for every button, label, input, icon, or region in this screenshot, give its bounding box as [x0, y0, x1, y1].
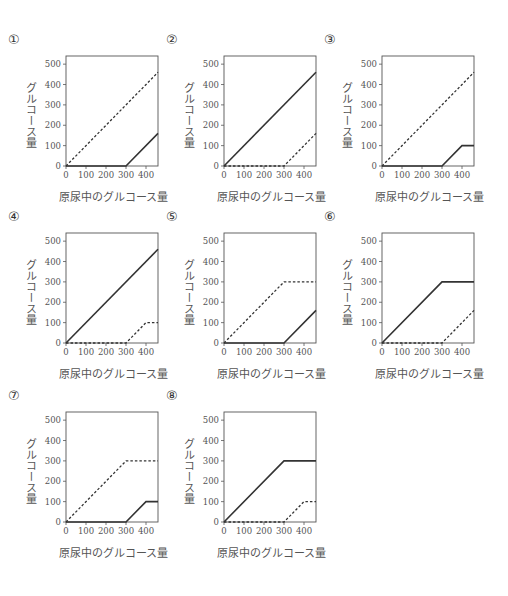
- y-tick-label: 300: [203, 100, 219, 110]
- plot-frame: [382, 56, 474, 166]
- dashed-line: [224, 133, 316, 166]
- y-tick-label: 300: [203, 277, 219, 287]
- y-axis-label: グルコース量: [182, 82, 194, 148]
- x-tick-label: 300: [276, 170, 292, 180]
- y-axis-label: グルコース量: [24, 259, 36, 325]
- x-axis-label: 原尿中のグルコース量: [217, 365, 326, 381]
- y-tick-label: 400: [203, 80, 219, 90]
- x-tick-label: 400: [296, 347, 312, 357]
- x-tick-label: 400: [296, 526, 312, 536]
- chart-4: 01002003004005000100200300400: [66, 233, 158, 343]
- x-tick-label: 400: [454, 347, 470, 357]
- y-tick-label: 400: [361, 80, 377, 90]
- chart-1: 01002003004005000100200300400: [66, 56, 158, 166]
- panel-number: ②: [166, 32, 178, 47]
- x-tick-label: 300: [276, 526, 292, 536]
- x-axis-label: 原尿中のグルコース量: [59, 365, 168, 381]
- x-axis-label: 原尿中のグルコース量: [59, 544, 168, 560]
- y-tick-label: 100: [45, 318, 61, 328]
- chart-8: 01002003004005000100200300400: [224, 412, 316, 522]
- y-tick-label: 400: [361, 257, 377, 267]
- y-tick-label: 0: [214, 161, 219, 171]
- panel-number: ⑦: [8, 388, 20, 403]
- y-tick-label: 200: [361, 297, 377, 307]
- plot-frame: [224, 233, 316, 343]
- y-axis-label: グルコース量: [182, 438, 194, 504]
- y-tick-label: 0: [56, 517, 61, 527]
- solid-line: [66, 133, 158, 166]
- panel-number: ①: [8, 32, 20, 47]
- y-axis-label: グルコース量: [24, 82, 36, 148]
- x-tick-label: 0: [63, 347, 68, 357]
- x-tick-label: 200: [256, 526, 272, 536]
- y-tick-label: 200: [45, 476, 61, 486]
- x-tick-label: 100: [236, 347, 252, 357]
- x-tick-label: 100: [78, 347, 94, 357]
- y-tick-label: 300: [45, 277, 61, 287]
- x-tick-label: 400: [138, 526, 154, 536]
- x-tick-label: 0: [379, 170, 384, 180]
- y-tick-label: 500: [361, 236, 377, 246]
- y-tick-label: 100: [45, 141, 61, 151]
- y-tick-label: 200: [203, 297, 219, 307]
- panel-number: ⑧: [166, 388, 178, 403]
- solid-line: [224, 72, 316, 166]
- y-tick-label: 400: [45, 257, 61, 267]
- x-tick-label: 0: [379, 347, 384, 357]
- x-tick-label: 300: [118, 526, 134, 536]
- y-tick-label: 0: [56, 161, 61, 171]
- y-axis-label: グルコース量: [340, 82, 352, 148]
- y-tick-label: 400: [203, 257, 219, 267]
- x-tick-label: 300: [276, 347, 292, 357]
- chart-6: 01002003004005000100200300400: [382, 233, 474, 343]
- plot-frame: [224, 412, 316, 522]
- y-axis-label: グルコース量: [24, 438, 36, 504]
- y-tick-label: 500: [45, 415, 61, 425]
- x-axis-label: 原尿中のグルコース量: [217, 544, 326, 560]
- y-tick-label: 0: [56, 338, 61, 348]
- y-tick-label: 200: [203, 476, 219, 486]
- solid-line: [382, 282, 474, 343]
- y-tick-label: 100: [203, 141, 219, 151]
- y-tick-label: 0: [372, 338, 377, 348]
- y-tick-label: 100: [203, 497, 219, 507]
- dashed-line: [66, 323, 158, 343]
- dashed-line: [224, 502, 316, 522]
- x-tick-label: 100: [236, 526, 252, 536]
- y-axis-label: グルコース量: [340, 259, 352, 325]
- plot-frame: [66, 56, 158, 166]
- chart-2: 01002003004005000100200300400: [224, 56, 316, 166]
- x-tick-label: 0: [221, 170, 226, 180]
- y-tick-label: 300: [45, 456, 61, 466]
- y-tick-label: 500: [203, 415, 219, 425]
- chart-7: 01002003004005000100200300400: [66, 412, 158, 522]
- chart-5: 01002003004005000100200300400: [224, 233, 316, 343]
- x-tick-label: 300: [118, 170, 134, 180]
- y-tick-label: 100: [203, 318, 219, 328]
- y-tick-label: 200: [45, 297, 61, 307]
- y-tick-label: 200: [45, 120, 61, 130]
- y-tick-label: 100: [45, 497, 61, 507]
- solid-line: [382, 146, 474, 166]
- x-tick-label: 100: [78, 170, 94, 180]
- y-tick-label: 300: [361, 277, 377, 287]
- y-tick-label: 400: [45, 436, 61, 446]
- solid-line: [66, 249, 158, 343]
- x-tick-label: 0: [63, 526, 68, 536]
- y-tick-label: 100: [361, 318, 377, 328]
- x-axis-label: 原尿中のグルコース量: [375, 188, 484, 204]
- x-tick-label: 400: [296, 170, 312, 180]
- y-tick-label: 300: [203, 456, 219, 466]
- dashed-line: [382, 310, 474, 343]
- y-tick-label: 300: [45, 100, 61, 110]
- x-tick-label: 400: [454, 170, 470, 180]
- x-tick-label: 300: [434, 170, 450, 180]
- x-tick-label: 100: [394, 347, 410, 357]
- panel-number: ⑥: [324, 209, 336, 224]
- x-tick-label: 100: [394, 170, 410, 180]
- x-axis-label: 原尿中のグルコース量: [217, 188, 326, 204]
- y-tick-label: 0: [214, 517, 219, 527]
- x-tick-label: 300: [118, 347, 134, 357]
- y-tick-label: 300: [361, 100, 377, 110]
- dashed-line: [382, 72, 474, 166]
